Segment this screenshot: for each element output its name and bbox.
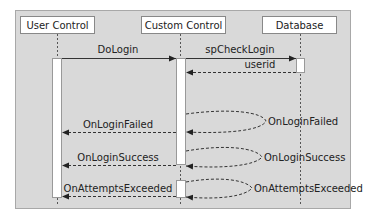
message-label: OnLoginSuccess	[264, 152, 345, 163]
message-label: OnLoginFailed	[268, 116, 338, 127]
participant-user-control: User Control	[21, 17, 95, 34]
message-label: OnLoginFailed	[83, 119, 153, 130]
sequence-diagram: User Control Custom Control Database DoL…	[0, 0, 366, 222]
message-label: spCheckLogin	[205, 44, 274, 55]
message-label: OnLoginSuccess	[77, 152, 158, 163]
participant-label: Database	[276, 20, 324, 31]
participant-label: Custom Control	[145, 20, 223, 31]
activation-user-control	[53, 59, 62, 198]
participant-custom-control: Custom Control	[142, 17, 226, 34]
message-label: OnAttemptsExceeded	[64, 183, 173, 194]
message-label: DoLogin	[98, 44, 139, 55]
activation-database	[297, 59, 305, 73]
message-label: OnAttemptsExceeded	[254, 183, 363, 194]
activation-custom-control-2	[177, 181, 186, 198]
activation-custom-control-1	[177, 59, 186, 165]
participant-label: User Control	[26, 20, 88, 31]
participant-database: Database	[263, 17, 337, 34]
message-label: userid	[245, 59, 276, 70]
